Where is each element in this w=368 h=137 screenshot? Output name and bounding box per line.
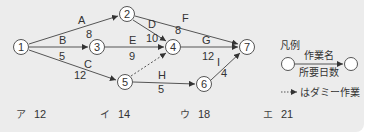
legend-start-node: [282, 58, 295, 71]
edge-B-days: 5: [59, 50, 65, 62]
node-1: 1: [14, 40, 29, 55]
edge-H-name: H: [158, 69, 166, 81]
choice-i[interactable]: イ14: [100, 106, 130, 121]
edge-E-days: 9: [129, 50, 135, 62]
nodes: 1 2 3 4 5 6 7: [14, 7, 255, 92]
choice-u-key: ウ: [180, 109, 190, 120]
legend-task-name: 作業名: [304, 49, 334, 61]
legend-dummy-note: はダミー作業: [300, 86, 360, 98]
edge-B-name: B: [59, 34, 66, 46]
legend-end-node: [345, 58, 358, 71]
node-3: 3: [90, 40, 105, 55]
node-5: 5: [118, 75, 133, 90]
legend-duration: 所要日数: [299, 66, 339, 78]
node-2: 2: [120, 7, 135, 22]
legend: 凡例 作業名 所要日数 はダミー作業: [280, 39, 360, 98]
node-6: 6: [197, 77, 212, 92]
edge-D-name: D: [148, 18, 156, 30]
edge-I-name: I: [217, 56, 220, 68]
node-4: 4: [166, 40, 181, 55]
choice-e-value: 21: [281, 108, 293, 120]
choice-i-key: イ: [100, 109, 110, 120]
edge-A-name: A: [78, 14, 86, 26]
choice-e[interactable]: エ21: [263, 106, 293, 121]
svg-text:6: 6: [201, 78, 207, 90]
choice-a[interactable]: ア12: [16, 106, 46, 121]
svg-text:4: 4: [170, 41, 176, 53]
choice-a-key: ア: [16, 109, 26, 120]
svg-text:5: 5: [122, 76, 128, 88]
edge-E-name: E: [129, 34, 136, 46]
svg-text:7: 7: [244, 41, 250, 53]
edge-A: [29, 16, 118, 44]
edge-G-days: 12: [202, 50, 214, 62]
edge-H-days: 5: [158, 83, 164, 95]
edge-C: [29, 50, 116, 80]
edge-F-days: 8: [175, 24, 181, 36]
answer-choices: ア12 イ14 ウ18 エ21: [0, 106, 364, 124]
node-7: 7: [240, 40, 255, 55]
svg-text:3: 3: [94, 41, 100, 53]
choice-a-value: 12: [34, 108, 46, 120]
edge-C-days: 12: [74, 69, 86, 81]
choice-e-key: エ: [263, 109, 273, 120]
legend-title: 凡例: [280, 39, 300, 51]
choice-i-value: 14: [118, 108, 130, 120]
edge-A-days: 8: [86, 28, 92, 40]
svg-text:1: 1: [18, 41, 24, 53]
edge-F-name: F: [182, 12, 189, 24]
edge-I-days: 4: [221, 67, 227, 79]
choice-u-value: 18: [198, 108, 210, 120]
choice-u[interactable]: ウ18: [180, 106, 210, 121]
edge-D-days: 10: [146, 32, 158, 44]
edge-G-name: G: [202, 34, 211, 46]
svg-text:2: 2: [124, 8, 130, 20]
